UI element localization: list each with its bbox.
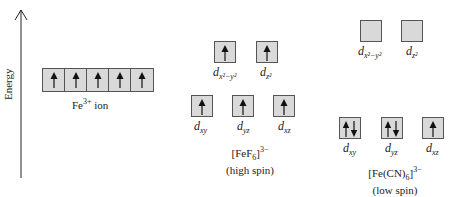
label-dxy-low: dxy — [343, 141, 356, 157]
orbital-box-dxy-high — [191, 95, 213, 117]
label-dz2-low: dz² — [406, 44, 418, 60]
spin-up-arrow-icon — [426, 121, 440, 137]
spin-up-arrow-icon — [195, 99, 209, 115]
label-dxy-high: dxy — [194, 119, 207, 135]
spin-pair-arrow-icon — [383, 121, 401, 137]
orbital-box-dxy-low — [339, 117, 361, 139]
free-ion-caption: Fe3+ ion — [72, 95, 108, 112]
spin-up-arrow-icon — [135, 72, 149, 88]
orbital-box-dz2-low — [401, 20, 423, 42]
spin-pair-arrow-icon — [341, 121, 359, 137]
high-spin-caption: [FeF6]3− (high spin) — [220, 143, 280, 177]
orbital-box — [131, 69, 153, 91]
orbital-box-dyz-high — [232, 95, 254, 117]
spin-up-arrow-icon — [47, 72, 61, 88]
spin-up-arrow-icon — [277, 99, 291, 115]
spin-up-arrow-icon — [236, 99, 250, 115]
label-dxz-low: dxz — [426, 141, 439, 157]
spin-up-arrow-icon — [260, 45, 274, 61]
energy-axis-label: Energy — [2, 68, 14, 100]
orbital-box — [65, 69, 87, 91]
free-ion-orbitals — [42, 68, 154, 92]
label-dxz-high: dxz — [278, 119, 291, 135]
orbital-box-dx2y2-low — [360, 20, 382, 42]
label-dx2y2-high: dx²−y² — [213, 65, 236, 81]
orbital-box-dyz-low — [381, 117, 403, 139]
orbital-box-dx2y2-high — [214, 41, 236, 63]
spin-up-arrow-icon — [218, 45, 232, 61]
spin-up-arrow-icon — [91, 72, 105, 88]
label-dyz-low: dyz — [385, 141, 398, 157]
label-dz2-high: dz² — [260, 65, 272, 81]
label-dx2y2-low: dx²−y² — [358, 44, 381, 60]
orbital-box — [43, 69, 65, 91]
spin-up-arrow-icon — [113, 72, 127, 88]
orbital-box-dz2-high — [256, 41, 278, 63]
orbital-box-dxz-low — [422, 117, 444, 139]
label-dyz-high: dyz — [237, 119, 250, 135]
orbital-box — [87, 69, 109, 91]
orbital-box — [109, 69, 131, 91]
spin-up-arrow-icon — [69, 72, 83, 88]
orbital-box-dxz-high — [273, 95, 295, 117]
low-spin-caption: [Fe(CN)6]3− (low spin) — [360, 163, 430, 197]
energy-axis-arrow-icon — [14, 8, 28, 180]
